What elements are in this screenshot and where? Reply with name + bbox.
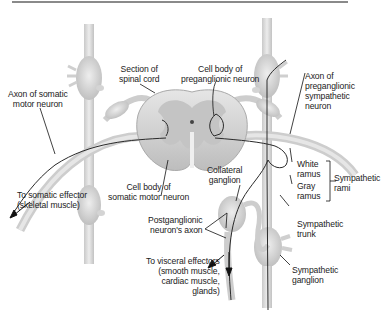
spinal-cord-section bbox=[137, 90, 248, 171]
label-white-ramus: White ramus bbox=[297, 159, 320, 179]
collateral-ganglion-structure bbox=[218, 196, 268, 300]
label-sympathetic-trunk: Sympathetic trunk bbox=[297, 219, 343, 239]
label-postganglionic-axon: Postganglionic neuron's axon bbox=[148, 215, 203, 235]
label-collateral-ganglion: Collateral ganglion bbox=[207, 165, 242, 185]
label-gray-ramus: Gray ramus bbox=[297, 181, 320, 201]
label-visceral-effectors: To visceral effectors (smooth muscle, ca… bbox=[146, 256, 220, 296]
neuron-pathway-diagram: Section of spinal cord Cell body of preg… bbox=[0, 0, 388, 315]
right-sympathetic-chain bbox=[252, 18, 292, 308]
label-cell-body-preganglionic: Cell body of preganglionic neuron bbox=[181, 64, 259, 84]
label-somatic-effector: To somatic effector (skeletal muscle) bbox=[17, 190, 87, 210]
label-sympathetic-ganglion: Sympathetic ganglion bbox=[292, 265, 338, 285]
label-axon-somatic-motor: Axon of somatic motor neuron bbox=[8, 89, 68, 109]
label-sympathetic-rami: Sympathetic rami bbox=[334, 173, 380, 193]
label-axon-preganglionic-sympathetic: Axon of preganglionic sympathetic neuron bbox=[305, 71, 355, 111]
label-cell-body-somatic-motor: Cell body of somatic motor neuron bbox=[108, 182, 189, 202]
label-section-of-spinal-cord: Section of spinal cord bbox=[119, 64, 159, 84]
